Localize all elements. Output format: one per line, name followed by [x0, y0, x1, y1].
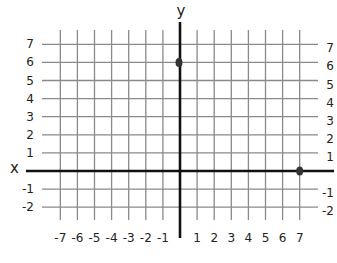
y-tick-label-right: 1	[326, 150, 334, 164]
y-tick-label-right: -2	[322, 204, 334, 218]
y-tick-label-left: 4	[26, 92, 34, 106]
x-tick-label: 1	[193, 231, 201, 245]
data-point	[296, 167, 303, 176]
data-point	[176, 58, 183, 67]
y-tick-label-right: 2	[326, 132, 334, 146]
y-tick-label-left: 3	[26, 110, 34, 124]
y-tick-label-right: 7	[326, 41, 334, 55]
y-tick-label-left: -2	[22, 200, 34, 214]
y-tick-label-left: -1	[22, 182, 34, 196]
y-tick-label-right: 5	[326, 78, 334, 92]
x-tick-label: -4	[106, 231, 118, 245]
x-tick-label: -6	[71, 231, 83, 245]
y-tick-label-left: 7	[26, 37, 34, 51]
x-tick-label: 2	[210, 231, 218, 245]
y-tick-label-right: 4	[326, 96, 334, 110]
x-tick-label: -5	[89, 231, 101, 245]
x-tick-label: 5	[262, 231, 270, 245]
x-tick-label: -2	[140, 231, 152, 245]
axes	[26, 22, 334, 238]
y-tick-label-left: 6	[26, 55, 34, 69]
x-axis-label: x	[10, 159, 19, 177]
y-tick-label-left: 1	[26, 146, 34, 160]
y-tick-label-right: 3	[326, 114, 334, 128]
x-tick-label: -3	[123, 231, 135, 245]
x-tick-label: 7	[296, 231, 304, 245]
y-tick-label-left: 2	[26, 128, 34, 142]
tick-labels: -7-6-5-4-3-2-1123456777665544332211-1-1-…	[22, 37, 334, 245]
coordinate-plane: -7-6-5-4-3-2-1123456777665544332211-1-1-…	[0, 0, 337, 263]
y-tick-label-left: 5	[26, 74, 34, 88]
x-tick-label: 4	[245, 231, 253, 245]
x-tick-label: -7	[54, 231, 66, 245]
y-axis-label: y	[177, 2, 186, 20]
y-tick-label-right: -1	[322, 186, 334, 200]
x-tick-label: -1	[157, 231, 169, 245]
y-tick-label-right: 6	[326, 59, 334, 73]
x-tick-label: 3	[227, 231, 235, 245]
x-tick-label: 6	[279, 231, 287, 245]
